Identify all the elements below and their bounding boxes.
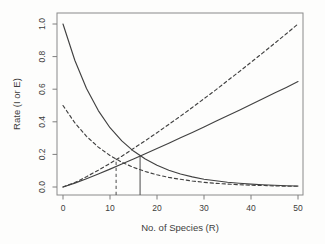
x-tick-label: 20 (152, 203, 162, 213)
x-tick-label: 30 (199, 203, 209, 213)
immigration-rate-solid-curve (63, 24, 298, 186)
y-tick-label: 0.4 (37, 116, 47, 128)
y-axis-ticks: 0.00.20.40.60.81.0 (37, 18, 57, 193)
y-tick-label: 0.0 (37, 181, 47, 193)
x-tick-label: 10 (105, 203, 115, 213)
y-tick-label: 1.0 (37, 18, 47, 30)
x-tick-label: 50 (293, 203, 303, 213)
extinction-rate-solid-curve (63, 82, 298, 188)
rate-vs-species-chart: 01020304050 0.00.20.40.60.81.0 No. of Sp… (0, 0, 325, 244)
rate-curves (63, 24, 298, 187)
y-axis-label: Rate (I or E) (11, 78, 22, 130)
x-tick-label: 40 (246, 203, 256, 213)
scanned-figure-page: 01020304050 0.00.20.40.60.81.0 No. of Sp… (0, 0, 325, 244)
x-tick-label: 0 (61, 203, 66, 213)
y-tick-label: 0.6 (37, 83, 47, 95)
x-axis-ticks: 01020304050 (61, 195, 303, 213)
extinction-rate-dashed-curve (63, 24, 298, 187)
plot-frame (57, 13, 303, 195)
y-tick-label: 0.2 (37, 148, 47, 160)
x-axis-label: No. of Species (R) (141, 222, 219, 233)
y-tick-label: 0.8 (37, 50, 47, 62)
